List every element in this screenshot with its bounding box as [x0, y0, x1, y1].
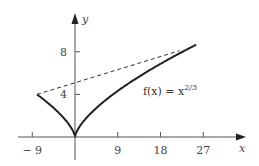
- x-axis-label: x: [239, 142, 246, 155]
- y-tick-label: 8: [60, 46, 67, 59]
- x-axis-arrow-icon: [236, 134, 246, 141]
- function-label-main: f(x) = x: [143, 85, 185, 98]
- function-chart: − 991827 48 y x f(x) = x2/3: [0, 0, 259, 166]
- y-axis-arrow-icon: [72, 13, 79, 24]
- function-label-exponent: 2/3: [184, 83, 197, 92]
- x-ticks: − 991827: [22, 132, 210, 157]
- y-axis-label: y: [81, 13, 89, 26]
- y-ticks: 48: [60, 46, 80, 102]
- y-tick-label: 4: [60, 88, 67, 101]
- x-tick-label: 18: [154, 144, 168, 157]
- x-tick-label: 27: [196, 144, 210, 157]
- function-label: f(x) = x2/3: [143, 83, 197, 98]
- x-tick-label: 9: [114, 144, 121, 157]
- x-tick-label: − 9: [22, 144, 42, 157]
